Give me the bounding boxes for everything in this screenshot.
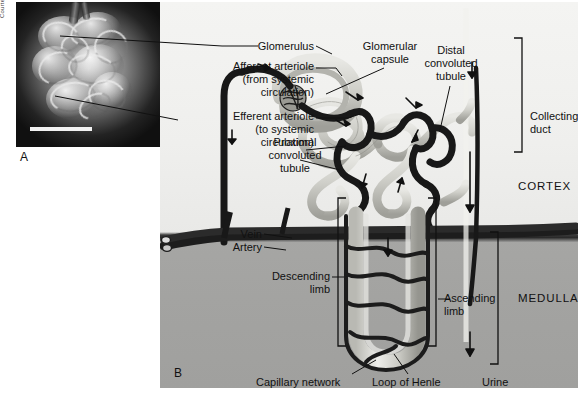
panel-b-diagram: Glomerulus Afferent arteriole (from syst… xyxy=(160,2,578,388)
figure-root: Courtesy of Kenjiro Kimura, MD, PhD A xyxy=(0,0,578,402)
panel-b-leader-lines xyxy=(160,2,578,388)
